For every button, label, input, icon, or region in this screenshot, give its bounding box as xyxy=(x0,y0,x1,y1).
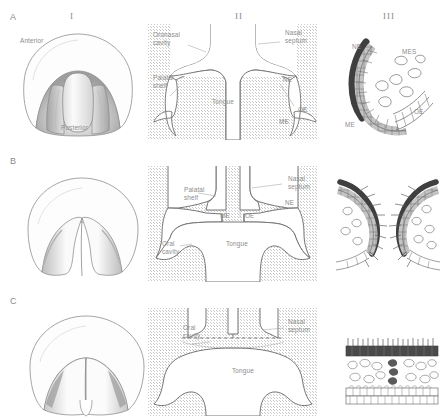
cilia-nasal-epithelium xyxy=(348,338,433,346)
nasal-septum xyxy=(228,308,238,334)
label-oe: OE xyxy=(298,106,308,113)
label-oronasal-1: Oronasal xyxy=(153,31,180,38)
row-letter-b: B xyxy=(10,156,17,166)
label-oral-cavity-2: cavity xyxy=(183,332,200,339)
panel-b-ii: Palatal shelf Nasal septum NE ME OE Tong… xyxy=(148,166,318,282)
label-ne: NE xyxy=(283,76,292,83)
label-nasal-septum-1: Nasal xyxy=(288,175,305,182)
mesenchyme-cells xyxy=(376,55,425,107)
label-mes: MES xyxy=(402,48,416,55)
label-me: ME xyxy=(279,118,289,125)
nasal-chamber-right xyxy=(260,308,278,338)
mesenchyme-cells-right xyxy=(412,205,436,248)
midline-cleft xyxy=(81,218,82,276)
label-oe: OE xyxy=(245,212,255,219)
label-tongue: Tongue xyxy=(226,240,248,247)
label-tongue: Tongue xyxy=(212,98,234,105)
label-nasal-septum-2: septum xyxy=(288,326,310,333)
oral-cavity-space xyxy=(182,342,284,348)
panel-c-i xyxy=(22,308,152,418)
label-me: ME xyxy=(345,121,355,128)
panel-c-iii xyxy=(344,336,440,410)
panel-b-iii xyxy=(334,176,442,272)
row-letter-c: C xyxy=(10,296,17,306)
label-nasal-septum-2: septum xyxy=(288,183,310,190)
label-palatal-shelf-2: shelf xyxy=(153,82,167,89)
panel-a-iii: NE MES ME OE xyxy=(336,26,442,138)
label-oral-cavity-1: Oral xyxy=(162,240,175,247)
label-palatal-shelf-2: shelf xyxy=(184,194,198,201)
label-nasal-septum-1: Nasal xyxy=(288,318,305,325)
panel-c-i-drawing xyxy=(22,308,152,418)
label-oral-cavity-1: Oral xyxy=(183,324,196,331)
leader-oral-cavity xyxy=(192,342,210,344)
panel-a-i: Anterior Posterior xyxy=(14,24,144,140)
label-ne: NE xyxy=(285,199,294,206)
label-oronasal-2: cavity xyxy=(153,39,170,46)
label-ne: NE xyxy=(352,43,361,50)
row-letter-a: A xyxy=(10,12,17,22)
label-anterior: Anterior xyxy=(20,37,44,44)
label-palatal-shelf-1: Palatal xyxy=(184,186,205,193)
panel-c-ii: Oral cavity Nasal septum Tongue xyxy=(148,308,318,416)
tongue-outline xyxy=(154,348,312,416)
label-nasal-septum-2: septum xyxy=(285,37,307,44)
label-oe: OE xyxy=(414,108,424,115)
label-posterior: Posterior xyxy=(61,124,88,131)
panel-b-i xyxy=(18,166,148,282)
label-tongue: Tongue xyxy=(232,367,254,374)
apoptotic-seam-remnants xyxy=(388,359,398,384)
panel-b-iii-drawing xyxy=(334,176,442,272)
panel-b-i-drawing xyxy=(18,166,148,282)
panel-a-ii: Oronasal cavity Nasal septum Palatal she… xyxy=(148,24,318,140)
column-numeral-iii: III xyxy=(383,11,395,21)
label-palatal-shelf-1: Palatal xyxy=(153,74,174,81)
column-numeral-i: I xyxy=(70,11,74,21)
mesenchyme-cells-left xyxy=(341,207,362,245)
label-oral-cavity-2: cavity xyxy=(162,248,179,255)
column-numeral-ii: II xyxy=(235,11,243,21)
label-nasal-septum-1: Nasal xyxy=(285,29,302,36)
panel-c-iii-drawing xyxy=(344,336,440,410)
label-me: ME xyxy=(220,212,230,219)
palatogenesis-figure: A B C I II III xyxy=(0,0,442,420)
